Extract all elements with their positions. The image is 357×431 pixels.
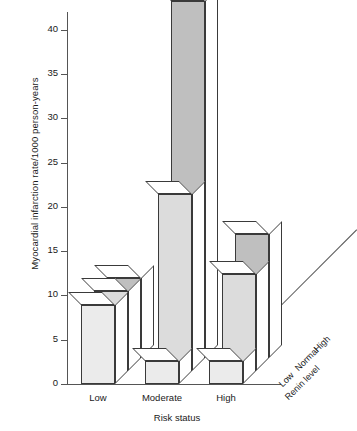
bar-top-face [222, 221, 269, 234]
bar-side-face [192, 181, 205, 371]
bar-front-face [145, 361, 179, 384]
bar-side-face [128, 278, 141, 371]
x-axis-line [67, 384, 281, 385]
bar-front-face [158, 194, 192, 371]
y-tick-label: 25 [18, 156, 58, 167]
y-tick [61, 118, 68, 119]
bar-3d [145, 361, 179, 384]
x-axis-title: Risk status [107, 412, 247, 423]
bar-side-face [141, 265, 154, 358]
y-tick [61, 251, 68, 252]
y-tick-label: 30 [18, 111, 58, 122]
y-tick [61, 295, 68, 296]
y-tick [61, 384, 68, 385]
y-tick-label: 35 [18, 67, 58, 78]
bar-3d [209, 361, 243, 384]
bar-side-face [205, 0, 218, 358]
y-tick [61, 207, 68, 208]
y-tick-label: 0 [18, 377, 58, 388]
depth-axis-line [279, 229, 357, 307]
y-tick-label: 5 [18, 333, 58, 344]
y-tick [61, 74, 68, 75]
y-tick [61, 340, 68, 341]
y-tick-label: 40 [18, 23, 58, 34]
y-tick-label: 15 [18, 244, 58, 255]
x-axis-label-high: High [186, 392, 266, 403]
bar-front-face [209, 361, 243, 384]
y-tick-label: 20 [18, 200, 58, 211]
bar-side-face [115, 292, 128, 384]
bar-front-face [81, 305, 115, 384]
bar-3d [158, 194, 192, 371]
y-tick-label: 10 [18, 288, 58, 299]
bar-3d [81, 305, 115, 384]
bar-top-face [94, 265, 141, 278]
y-tick [61, 30, 68, 31]
y-tick [61, 163, 68, 164]
y-axis-line [67, 12, 68, 384]
bar-side-face [269, 221, 282, 358]
y-axis-title: Myocardial infarction rate/1000 person-y… [29, 44, 40, 304]
bar-side-face [256, 261, 269, 371]
